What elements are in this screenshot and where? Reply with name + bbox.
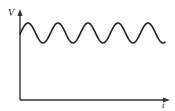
x-axis-label: t (162, 101, 165, 110)
plot-canvas (0, 0, 175, 111)
y-axis-arrow-icon (18, 9, 23, 16)
y-axis-label: V (8, 8, 14, 18)
waveform-diagram: V t (0, 0, 175, 111)
voltage-waveform (20, 23, 165, 43)
